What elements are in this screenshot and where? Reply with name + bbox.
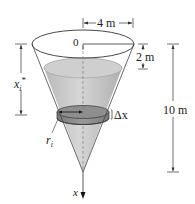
top-radius-label: 4 m xyxy=(97,17,115,29)
slab-depth-label: xi* xyxy=(14,76,26,93)
height-label: 10 m xyxy=(163,104,187,116)
cone-tank-diagram: 0 4 m 2 m 10 m Δx xi* ri x xyxy=(0,0,195,204)
x-axis-arrow xyxy=(81,192,86,199)
axis-label: x xyxy=(73,187,78,198)
water-depth-label: 2 m xyxy=(136,51,154,63)
slab-radius-leader xyxy=(52,119,58,133)
slab-thickness-label: Δx xyxy=(114,109,128,121)
cone-drawing xyxy=(0,0,195,204)
origin-label: 0 xyxy=(73,37,79,48)
slab-radius-label: ri xyxy=(46,134,53,149)
